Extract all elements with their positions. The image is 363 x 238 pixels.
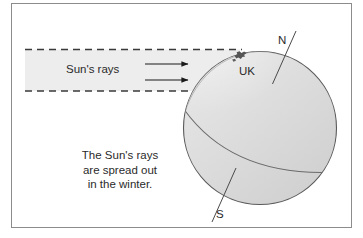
winter-sun-rays-diagram: Sun's rays UK N S The Sun's rays are spr… (0, 0, 363, 238)
sun-rays-label: Sun's rays (66, 62, 119, 77)
caption-line-1: The Sun's rays (64, 148, 176, 163)
diagram-caption: The Sun's rays are spread out in the win… (64, 148, 176, 192)
diagram-canvas (0, 0, 363, 238)
uk-label: UK (239, 64, 255, 79)
north-pole-label: N (278, 33, 286, 48)
caption-line-3: in the winter. (64, 177, 176, 192)
caption-line-2: are spread out (64, 163, 176, 178)
south-pole-label: S (216, 207, 224, 222)
